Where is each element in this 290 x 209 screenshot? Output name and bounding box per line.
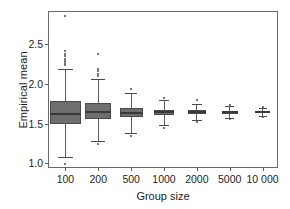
- outlier-point: [262, 116, 264, 118]
- plot-frame: 1.01.52.02.510020050010002000500010 000: [48, 11, 278, 168]
- plot-canvas: [49, 12, 279, 169]
- boxplot-box: [49, 12, 279, 169]
- x-axis-tick: [230, 167, 231, 171]
- x-axis-tick-label: 2000: [185, 173, 208, 185]
- x-axis-tick-label: 500: [122, 173, 140, 185]
- y-axis-tick-label: 1.5: [28, 118, 43, 130]
- outlier-point: [262, 106, 264, 108]
- y-axis-label: Empirical mean: [17, 15, 29, 165]
- x-axis-tick: [263, 167, 264, 171]
- y-axis-tick: [45, 84, 49, 85]
- y-axis-tick-label: 2.0: [28, 78, 43, 90]
- y-axis-tick: [45, 163, 49, 164]
- boxplot-figure: Empirical mean 1.01.52.02.51002005001000…: [0, 0, 290, 209]
- x-axis-tick: [65, 167, 66, 171]
- x-axis-tick-label: 5000: [218, 173, 241, 185]
- y-axis-tick-label: 1.0: [28, 157, 43, 169]
- x-axis-tick-label: 1000: [152, 173, 175, 185]
- x-axis-tick: [164, 167, 165, 171]
- x-axis-tick-label: 100: [57, 173, 75, 185]
- x-axis-label: Group size: [48, 190, 278, 202]
- x-axis-tick-label: 200: [90, 173, 108, 185]
- median-line: [255, 111, 270, 113]
- x-axis-tick: [98, 167, 99, 171]
- y-axis-tick-label: 2.5: [28, 38, 43, 50]
- y-axis-tick: [45, 124, 49, 125]
- whisker-cap-upper: [259, 108, 267, 109]
- x-axis-tick-label: 10 000: [247, 173, 279, 185]
- x-axis-tick: [197, 167, 198, 171]
- x-axis-tick: [131, 167, 132, 171]
- y-axis-tick: [45, 44, 49, 45]
